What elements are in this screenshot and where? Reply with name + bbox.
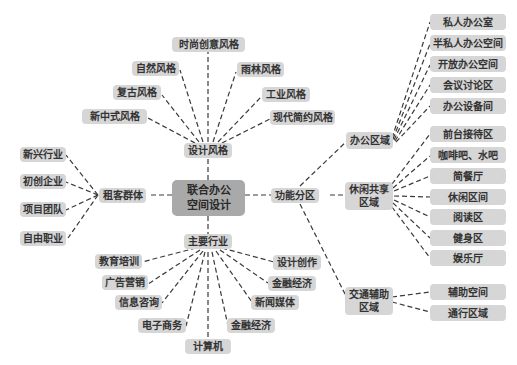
zone-leisure-shared[interactable]: 休闲共享 区域 (345, 182, 393, 210)
industry-item[interactable]: 设计创作 (273, 255, 321, 270)
tenant-group-item[interactable]: 项目团队 (20, 202, 66, 217)
design-style-item[interactable]: 现代简约风格 (270, 110, 335, 125)
office-area-item[interactable]: 会议讨论区 (430, 77, 506, 93)
leisure-area-item[interactable]: 休闲区间 (430, 189, 506, 205)
traffic-area-item[interactable]: 辅助空间 (430, 284, 506, 300)
industry-item[interactable]: 计算机 (185, 339, 231, 354)
industry-item[interactable]: 金融经济 (268, 276, 316, 291)
industry-item[interactable]: 信息咨询 (115, 295, 162, 310)
industry-item[interactable]: 广告营销 (102, 275, 148, 290)
office-area-item[interactable]: 半私人办公空间 (430, 35, 506, 51)
zone-office-area[interactable]: 办公区域 (346, 132, 393, 149)
office-area-item[interactable]: 办公设备间 (430, 98, 506, 114)
central-topic-node[interactable]: 联合办公 空间设计 (172, 180, 245, 216)
industry-item[interactable]: 金融经济 (227, 318, 275, 333)
design-style-item[interactable]: 工业风格 (262, 87, 310, 102)
leisure-area-item[interactable]: 前台接待区 (430, 126, 506, 142)
leisure-area-item[interactable]: 健身区 (430, 230, 506, 246)
central-topic-line-2: 空间设计 (187, 198, 231, 213)
industry-item[interactable]: 电子商务 (138, 318, 186, 333)
design-style-item[interactable]: 复古风格 (113, 85, 161, 100)
design-style-item[interactable]: 自然风格 (132, 61, 179, 76)
traffic-area-item[interactable]: 通行区域 (430, 305, 506, 321)
mind-map: 联合办公 空间设计 设计风格 时尚创意风格 自然风格 雨林风格 复古风格 工业风… (0, 0, 517, 365)
leisure-area-item[interactable]: 简餐厅 (430, 168, 506, 184)
industry-item[interactable]: 教育培训 (95, 254, 142, 269)
industry-item[interactable]: 新闻媒体 (251, 295, 299, 310)
zone-traffic-auxiliary[interactable]: 交通辅助 区域 (345, 287, 393, 315)
branch-tenant-groups[interactable]: 租客群体 (99, 188, 146, 203)
leisure-area-item[interactable]: 咖啡吧、水吧 (430, 147, 506, 163)
tenant-group-item[interactable]: 初创企业 (20, 174, 66, 189)
leisure-area-item[interactable]: 娱乐厅 (430, 250, 506, 266)
design-style-item[interactable]: 时尚创意风格 (172, 37, 245, 52)
central-topic-line-1: 联合办公 (187, 183, 231, 198)
branch-main-industries[interactable]: 主要行业 (184, 234, 232, 249)
office-area-item[interactable]: 开放办公空间 (430, 56, 506, 72)
branch-functional-zones[interactable]: 功能分区 (271, 188, 319, 203)
design-style-item[interactable]: 新中式风格 (82, 109, 147, 124)
design-style-item[interactable]: 雨林风格 (237, 62, 284, 77)
tenant-group-item[interactable]: 新兴行业 (20, 147, 66, 162)
office-area-item[interactable]: 私人办公室 (430, 14, 506, 30)
leisure-area-item[interactable]: 阅读区 (430, 209, 506, 225)
tenant-group-item[interactable]: 自由职业 (20, 231, 66, 246)
branch-design-style[interactable]: 设计风格 (184, 143, 232, 158)
